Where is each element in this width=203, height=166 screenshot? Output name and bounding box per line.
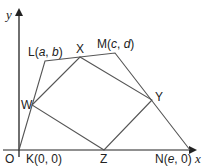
vertex-label-k: K(0, 0)	[26, 152, 62, 166]
y-axis-label: y	[4, 7, 12, 22]
vertex-label-y: Y	[155, 90, 163, 104]
vertex-label-m: M(c, d)	[97, 37, 134, 51]
outer-quadrilateral-klmn	[19, 53, 190, 150]
inner-quadrilateral-wxyz	[32, 57, 152, 150]
vertex-label-l: L(a, b)	[28, 45, 63, 59]
vertex-label-z: Z	[100, 152, 107, 166]
vertex-label-w: W	[21, 98, 33, 112]
x-axis-label: x	[194, 151, 201, 166]
origin-label: O	[5, 152, 14, 166]
vertex-label-n: N(e, 0)	[155, 152, 192, 166]
vertex-label-x: X	[76, 42, 84, 56]
quadrilateral-midpoint-diagram: y x O K(0, 0) L(a, b) M(c, d) N(e, 0) W …	[0, 0, 203, 166]
